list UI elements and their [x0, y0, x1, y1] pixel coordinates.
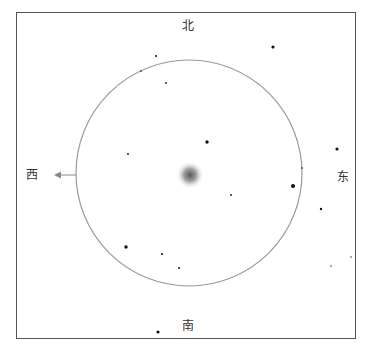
star: [335, 147, 338, 150]
star: [161, 253, 163, 255]
compass-north: 北: [182, 20, 194, 32]
star: [320, 208, 322, 210]
star: [156, 330, 159, 333]
star: [155, 55, 157, 57]
star: [330, 265, 331, 266]
star: [124, 245, 127, 248]
star: [140, 70, 142, 72]
star: [291, 184, 295, 188]
star: [271, 45, 274, 48]
west-arrow-icon: [54, 172, 76, 179]
star: [178, 267, 180, 269]
star: [205, 140, 208, 143]
star: [165, 82, 167, 84]
compass-east: 东: [337, 171, 349, 183]
sky-chart[interactable]: [0, 0, 370, 352]
star: [301, 167, 303, 169]
star-field: [124, 45, 351, 333]
compass-west: 西: [26, 169, 38, 181]
compass-south: 南: [182, 320, 194, 332]
star: [127, 153, 129, 155]
star: [350, 256, 351, 257]
target-object[interactable]: [176, 161, 204, 189]
star: [230, 194, 232, 196]
